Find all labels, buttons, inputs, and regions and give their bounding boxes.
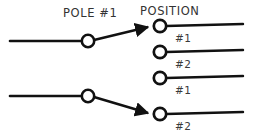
terminal-1-output-wire xyxy=(166,24,243,26)
terminal-4-label: #2 xyxy=(175,120,191,132)
terminal-3-contact[interactable] xyxy=(154,72,166,84)
pole-1-switch-arm[interactable] xyxy=(94,27,148,40)
pole-2-switch-arm[interactable] xyxy=(94,97,148,113)
terminal-2-label: #2 xyxy=(175,58,191,70)
position-header-label: POSITION xyxy=(140,4,200,18)
pole-2-pivot-terminal[interactable] xyxy=(82,90,94,102)
terminal-4-contact[interactable] xyxy=(154,108,166,120)
terminal-1-contact[interactable] xyxy=(154,20,166,32)
pole-1-pivot-terminal[interactable] xyxy=(82,35,94,47)
terminal-3-label: #1 xyxy=(175,84,191,96)
terminal-1-label: #1 xyxy=(175,32,191,44)
schematic-canvas: POLE #1 POSITION #1 #2 #1 #2 xyxy=(0,0,255,133)
terminal-2-contact[interactable] xyxy=(154,46,166,58)
terminal-4-output-wire xyxy=(166,112,243,114)
terminal-2-output-wire xyxy=(166,50,243,52)
switch-schematic-diagram: POLE #1 POSITION #1 #2 #1 #2 xyxy=(0,0,255,133)
pole-header-label: POLE #1 xyxy=(63,6,117,20)
terminal-3-output-wire xyxy=(166,76,243,78)
